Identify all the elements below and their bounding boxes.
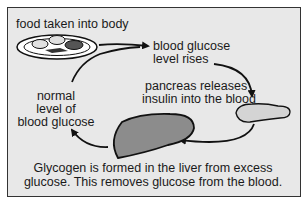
caption-line-1: Glycogen is formed in the liver from exc… bbox=[8, 161, 298, 175]
label-insulin-into-blood: insulin into the blood bbox=[142, 93, 256, 106]
arrow-food-to-glucose bbox=[99, 44, 148, 46]
label-food-taken-into-body: food taken into body bbox=[16, 18, 129, 31]
plate-of-food-icon bbox=[17, 35, 97, 59]
liver-icon bbox=[114, 114, 194, 158]
caption-line-2: glucose. This removes glucose from the b… bbox=[8, 175, 298, 189]
label-blood-glucose-normal: blood glucose bbox=[16, 116, 96, 129]
label-level-rises: level rises bbox=[153, 53, 209, 66]
pancreas-icon bbox=[236, 104, 290, 122]
arrow-liver-to-normal bbox=[72, 130, 108, 147]
caption: Glycogen is formed in the liver from exc… bbox=[8, 161, 298, 189]
